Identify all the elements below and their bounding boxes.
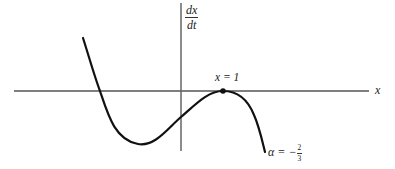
parameter-label-prefix: α = −: [268, 145, 297, 159]
parameter-denominator: 3: [298, 154, 302, 163]
parameter-numerator: 2: [297, 144, 303, 154]
point-label: x = 1: [215, 71, 239, 83]
y-label-numerator: dx: [185, 4, 198, 18]
parameter-label: α = − 2 3: [268, 144, 302, 162]
x-axis-label: x: [375, 83, 380, 98]
y-axis-label: dx dt: [185, 4, 198, 31]
tangent-point-marker: [220, 88, 226, 94]
y-label-denominator: dt: [187, 18, 196, 31]
dxdt-curve: [83, 38, 265, 152]
